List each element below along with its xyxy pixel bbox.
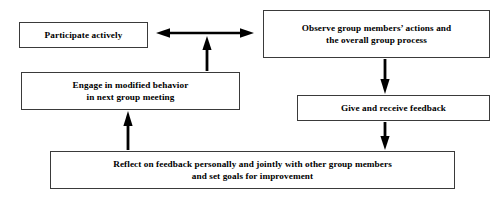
arrow-reflect-to-engage-head bbox=[123, 111, 132, 126]
arrow-participate-observe-head-right bbox=[240, 28, 254, 38]
arrow-observe-to-feedback bbox=[380, 59, 389, 94]
connector-svg bbox=[0, 0, 500, 207]
diagram-canvas: Participate actively Observe group membe… bbox=[0, 0, 500, 207]
arrow-feedback-to-reflect-head bbox=[380, 136, 389, 150]
arrow-engage-up bbox=[202, 36, 211, 71]
connector-layer bbox=[0, 0, 500, 207]
arrow-engage-up-head bbox=[202, 36, 211, 50]
arrow-reflect-to-engage bbox=[123, 111, 132, 150]
arrow-participate-observe-head-left bbox=[156, 28, 170, 38]
arrow-participate-observe-bidirectional bbox=[156, 28, 254, 38]
arrow-feedback-to-reflect bbox=[380, 122, 389, 150]
arrow-observe-to-feedback-head bbox=[380, 79, 389, 94]
